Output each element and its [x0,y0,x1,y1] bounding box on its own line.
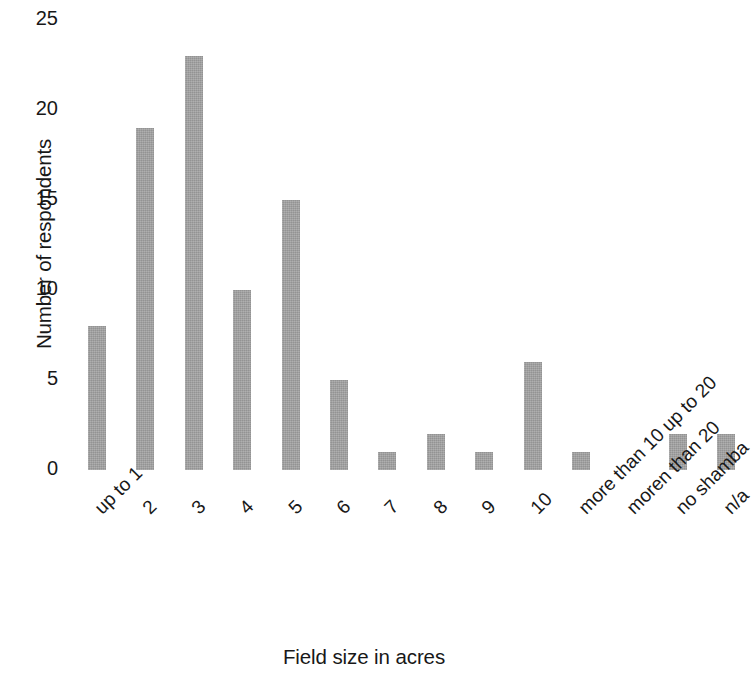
bar [136,128,154,470]
bar [233,290,251,470]
bar [378,452,396,470]
bar [185,56,203,470]
x-tick-label: 7 [381,497,402,518]
bar [282,200,300,470]
bar [330,380,348,470]
bar [427,434,445,470]
bar [572,452,590,470]
x-tick-label: 5 [285,497,306,518]
x-tick-label: 3 [188,497,209,518]
bar [524,362,542,470]
x-tick-label: 4 [236,497,257,518]
bar [88,326,106,470]
x-tick-label: up to 1 [91,463,146,518]
x-axis-title: Field size in acres [0,645,728,669]
bar [475,452,493,470]
x-tick-label: 10 [527,489,555,517]
x-tick-label: 6 [333,497,354,518]
x-tick-label: 2 [139,497,160,518]
plot-area [0,0,728,470]
x-tick-label: n/a [720,485,752,517]
x-tick-label: 8 [430,497,451,518]
x-tick-label: 9 [478,497,499,518]
